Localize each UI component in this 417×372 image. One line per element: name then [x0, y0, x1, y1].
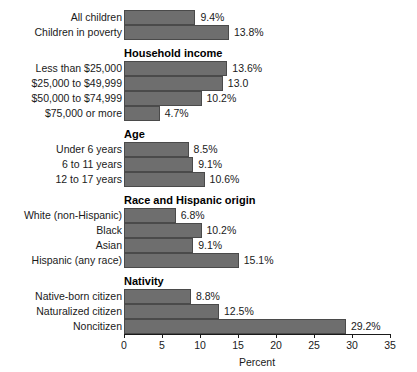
- bar-row: All children9.4%: [0, 10, 417, 25]
- bar-track: 8.8%: [124, 289, 417, 304]
- group-header: Age: [0, 125, 417, 142]
- bar-value-label: 12.5%: [224, 304, 254, 319]
- bar: [124, 253, 239, 268]
- bar-row: Asian9.1%: [0, 238, 417, 253]
- bar: [124, 76, 223, 91]
- bar-row: White (non-Hispanic)6.8%: [0, 208, 417, 223]
- bar-value-label: 9.1%: [198, 157, 222, 172]
- bar-value-label: 13.0: [228, 76, 248, 91]
- bar-row: 6 to 11 years9.1%: [0, 157, 417, 172]
- bar-track: 10.2%: [124, 223, 417, 238]
- bar-track: 13.6%: [124, 61, 417, 76]
- x-axis-tick-label: 20: [261, 339, 291, 351]
- group-header-label: Race and Hispanic origin: [124, 191, 255, 208]
- bar-track: 10.2%: [124, 91, 417, 106]
- bar-value-label: 10.2%: [207, 91, 237, 106]
- bar-value-label: 15.1%: [244, 253, 274, 268]
- x-axis-tick-mark: [276, 334, 277, 338]
- bar-value-label: 8.8%: [196, 289, 220, 304]
- x-axis-tick-label: 35: [375, 339, 405, 351]
- bar-track: 12.5%: [124, 304, 417, 319]
- bar-track: 13.8%: [124, 25, 417, 40]
- bar-category-label: $75,000 or more: [45, 106, 122, 121]
- x-axis-line: [124, 334, 390, 335]
- group-header-label: Nativity: [124, 272, 164, 289]
- x-axis-tick-mark: [352, 334, 353, 338]
- top-spacer: [0, 0, 417, 10]
- x-axis-tick-mark: [390, 334, 391, 338]
- bar-value-label: 13.8%: [234, 25, 264, 40]
- x-axis-tick-mark: [314, 334, 315, 338]
- bar-category-label: Noncitizen: [73, 319, 122, 334]
- bar-row: Children in poverty13.8%: [0, 25, 417, 40]
- bar: [124, 25, 229, 40]
- bar-track: 9.1%: [124, 157, 417, 172]
- x-axis-tick-mark: [200, 334, 201, 338]
- bar-row: $75,000 or more4.7%: [0, 106, 417, 121]
- bar-value-label: 10.6%: [210, 172, 240, 187]
- group-header: Race and Hispanic origin: [0, 191, 417, 208]
- x-axis-tick-label: 10: [185, 339, 215, 351]
- group-header-label: Age: [124, 125, 145, 142]
- bar-category-label: 12 to 17 years: [55, 172, 122, 187]
- bar-category-label: 6 to 11 years: [62, 157, 122, 172]
- bar-row: Noncitizen29.2%: [0, 319, 417, 334]
- bar-category-label: Hispanic (any race): [32, 253, 122, 268]
- bar: [124, 142, 189, 157]
- bar-track: 4.7%: [124, 106, 417, 121]
- horizontal-bar-chart: All children9.4%Children in poverty13.8%…: [0, 0, 417, 372]
- bar: [124, 289, 191, 304]
- bar-value-label: 8.5%: [194, 142, 218, 157]
- bar: [124, 304, 219, 319]
- bar: [124, 319, 346, 334]
- bar-row: $50,000 to $74,99910.2%: [0, 91, 417, 106]
- bar-row: 12 to 17 years10.6%: [0, 172, 417, 187]
- bar-value-label: 10.2%: [207, 223, 237, 238]
- bar-category-label: Native-born citizen: [35, 289, 122, 304]
- bar-track: 10.6%: [124, 172, 417, 187]
- bar-value-label: 29.2%: [351, 319, 381, 334]
- bar-category-label: Asian: [96, 238, 122, 253]
- bar-track: 29.2%: [124, 319, 417, 334]
- bar-track: 15.1%: [124, 253, 417, 268]
- plot-area: All children9.4%Children in poverty13.8%…: [0, 10, 417, 334]
- bar-row: Black10.2%: [0, 223, 417, 238]
- bar-track: 9.4%: [124, 10, 417, 25]
- bar-track: 6.8%: [124, 208, 417, 223]
- group-header: Nativity: [0, 272, 417, 289]
- x-axis: 05101520253035 Percent: [0, 334, 417, 372]
- bar: [124, 238, 193, 253]
- bar-row: Native-born citizen8.8%: [0, 289, 417, 304]
- bar-category-label: All children: [71, 10, 122, 25]
- bar-track: 9.1%: [124, 238, 417, 253]
- bar-track: 13.0: [124, 76, 417, 91]
- bar-row: $25,000 to $49,99913.0: [0, 76, 417, 91]
- bar: [124, 91, 202, 106]
- bar: [124, 61, 227, 76]
- bar-row: Under 6 years8.5%: [0, 142, 417, 157]
- x-axis-tick-label: 15: [223, 339, 253, 351]
- x-axis-tick-mark: [238, 334, 239, 338]
- x-axis-title: Percent: [124, 356, 390, 368]
- bar-row: Naturalized citizen12.5%: [0, 304, 417, 319]
- bar-category-label: Naturalized citizen: [36, 304, 122, 319]
- bar: [124, 208, 176, 223]
- x-axis-tick-mark: [162, 334, 163, 338]
- group-header-label: Household income: [124, 44, 222, 61]
- bar-value-label: 9.1%: [198, 238, 222, 253]
- bar-category-label: $50,000 to $74,999: [31, 91, 122, 106]
- bar: [124, 223, 202, 238]
- group-header: Household income: [0, 44, 417, 61]
- bar: [124, 157, 193, 172]
- bar-category-label: Children in poverty: [34, 25, 122, 40]
- bar-category-label: Less than $25,000: [36, 61, 122, 76]
- bar-track: 8.5%: [124, 142, 417, 157]
- bar-category-label: $25,000 to $49,999: [31, 76, 122, 91]
- x-axis-tick-label: 0: [109, 339, 139, 351]
- bar-row: Hispanic (any race)15.1%: [0, 253, 417, 268]
- x-axis-tick-label: 25: [299, 339, 329, 351]
- x-axis-tick-label: 5: [147, 339, 177, 351]
- bar-category-label: Black: [96, 223, 122, 238]
- x-axis-tick-mark: [124, 334, 125, 338]
- bar-category-label: White (non-Hispanic): [24, 208, 122, 223]
